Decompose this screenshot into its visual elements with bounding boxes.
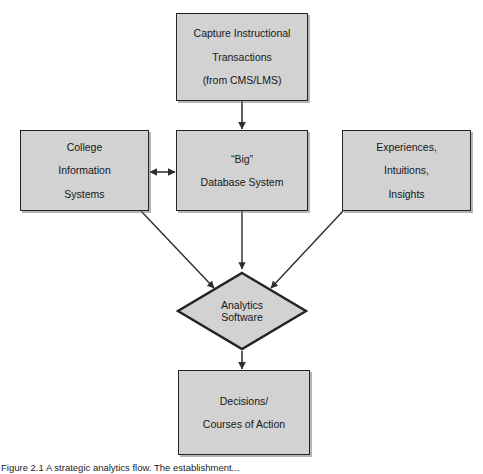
node-experiences-line-3: Insights — [388, 189, 424, 200]
node-decisions-line-1: Decisions/ — [220, 396, 268, 407]
node-analytics-software[interactable]: Analytics Software — [176, 271, 308, 351]
node-college-information-systems[interactable]: College Information Systems — [20, 130, 149, 211]
node-capture-line-2: Transactions — [212, 52, 272, 63]
node-experiences-line-2: Intuitions, — [384, 165, 429, 176]
node-experiences-intuitions-insights[interactable]: Experiences, Intuitions, Insights — [342, 130, 471, 211]
node-big-database-system[interactable]: “Big” Database System — [176, 130, 308, 211]
node-capture-instructional-transactions[interactable]: Capture Instructional Transactions (from… — [176, 13, 308, 101]
flowchart-diagram: Capture Instructional Transactions (from… — [0, 0, 483, 474]
node-decisions-line-2: Courses of Action — [203, 419, 285, 430]
node-college-line-1: College — [67, 142, 103, 153]
node-database-line-2: Database System — [201, 177, 284, 188]
node-college-line-3: Systems — [64, 189, 104, 200]
node-capture-line-1: Capture Instructional — [194, 28, 291, 39]
figure-caption: Figure 2.1 A strategic analytics flow. T… — [1, 462, 461, 474]
node-database-line-1: “Big” — [231, 154, 253, 165]
node-analytics-line-2: Software — [221, 312, 262, 323]
node-analytics-line-1: Analytics — [221, 300, 263, 311]
node-experiences-line-1: Experiences, — [376, 142, 437, 153]
node-college-line-2: Information — [58, 165, 111, 176]
node-capture-line-3: (from CMS/LMS) — [203, 75, 282, 86]
node-decisions-courses-of-action[interactable]: Decisions/ Courses of Action — [178, 370, 310, 455]
